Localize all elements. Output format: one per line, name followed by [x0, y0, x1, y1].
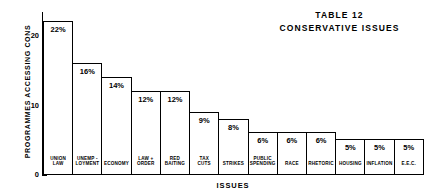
bar-category-label: RED BAITING [161, 156, 189, 167]
y-tick-mark [42, 175, 47, 176]
bar-category-label: TAX CUTS [190, 156, 218, 167]
bar-value-label: 5% [345, 143, 356, 152]
bar-category-label: ECONOMY [102, 161, 130, 167]
plot-area: 01020 22%UNION LAW16%UNEMP - LOYMENT14%E… [42, 12, 424, 175]
bar-value-label: 12% [167, 95, 182, 104]
bar: 16%UNEMP - LOYMENT [72, 63, 102, 174]
bar-category-label: RACE [278, 161, 306, 167]
bar: 12%RED BAITING [160, 91, 190, 174]
bar: 6%RHETORIC [306, 132, 336, 174]
bar-value-label: 9% [199, 116, 210, 125]
y-tick-label: 10 [20, 101, 39, 110]
x-axis-line [42, 174, 424, 175]
chart-figure: TABLE 12 CONSERVATIVE ISSUES PROGRAMMES … [0, 0, 436, 196]
bar: 22%UNION LAW [43, 21, 73, 174]
bar-category-label: STRIKES [219, 161, 247, 167]
bar: 14%ECONOMY [101, 77, 131, 174]
bar-category-label: LAW + ORDER [132, 156, 160, 167]
bar-category-label: RHETORIC [307, 161, 335, 167]
bar-category-label: UNION LAW [44, 156, 72, 167]
bar: 5%INFLATION [364, 139, 394, 174]
x-axis-label: ISSUES [42, 181, 424, 190]
y-tick-label: 0 [20, 170, 39, 179]
bar: 12%LAW + ORDER [131, 91, 161, 174]
bar: 5%E.E.C. [394, 139, 424, 174]
bar-value-label: 6% [316, 136, 327, 145]
bar-category-label: HOUSING [336, 161, 364, 167]
bar-category-label: E.E.C. [395, 161, 423, 167]
bar-value-label: 12% [138, 95, 153, 104]
bar-value-label: 5% [403, 143, 414, 152]
bar-series: 22%UNION LAW16%UNEMP - LOYMENT14%ECONOMY… [43, 12, 423, 174]
bar: 5%HOUSING [335, 139, 365, 174]
bar-value-label: 8% [228, 123, 239, 132]
bar-category-label: PUBLIC SPENDING [249, 156, 277, 167]
bar-value-label: 16% [80, 67, 95, 76]
bar: 6%PUBLIC SPENDING [248, 132, 278, 174]
y-tick: 0 [20, 175, 48, 176]
bar-value-label: 6% [286, 136, 297, 145]
bar-category-label: INFLATION [365, 161, 393, 167]
y-tick-label: 20 [20, 31, 39, 40]
bar-value-label: 5% [374, 143, 385, 152]
bar: 9%TAX CUTS [189, 112, 219, 174]
bar-value-label: 14% [109, 81, 124, 90]
bar: 6%RACE [277, 132, 307, 174]
bar: 8%STRIKES [218, 119, 248, 174]
bar-value-label: 6% [257, 136, 268, 145]
bar-category-label: UNEMP - LOYMENT [73, 156, 101, 167]
bar-value-label: 22% [51, 25, 66, 34]
